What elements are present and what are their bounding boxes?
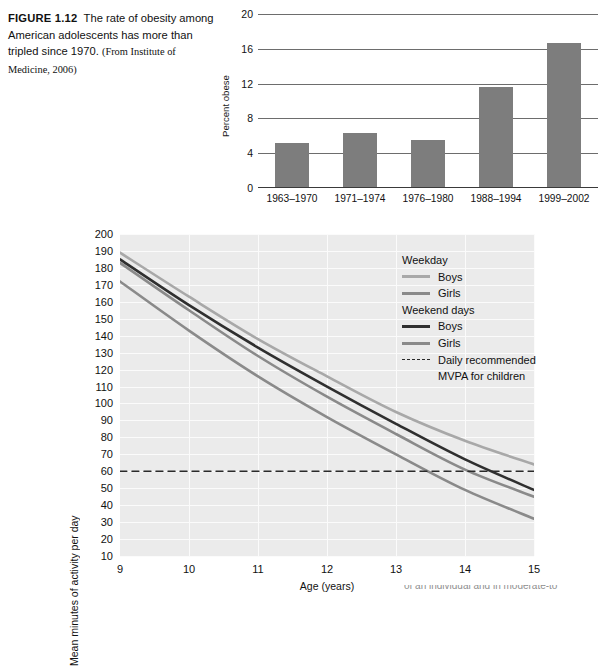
legend-item-weekday-boys: Boys [402,269,554,286]
line-y-tick-label: 110 [95,381,113,393]
line-y-tick-label: 150 [95,313,113,325]
legend-label-mvpa-line1: Daily recommended [438,352,536,369]
line-y-tick-label: 130 [95,347,113,359]
bar-y-tick-label: 20 [241,8,253,20]
line-x-tick-label: 10 [183,563,195,575]
line-x-tick-label: 15 [528,563,540,575]
bar-chart-x-axis [258,187,598,188]
line-y-tick-label: 70 [101,448,113,460]
bar-column [547,43,581,187]
line-x-tick-label: 9 [117,563,123,575]
legend-group-weekday: Weekday [402,252,554,269]
legend-label-weekend-boys: Boys [438,318,462,335]
bar-chart-plot-area: 048121620 1963–19701971–19741976–1980198… [258,10,598,188]
legend-item-weekend-boys: Boys [402,318,554,335]
line-y-tick-label: 40 [101,499,113,511]
legend-group-weekend: Weekend days [402,302,554,319]
legend-swatch-weekday-girls [402,292,430,295]
legend-label-weekday-girls: Girls [438,285,461,302]
bar-chart-y-axis-label: Percent obese [220,58,234,154]
bar-column [343,133,377,187]
line-y-tick-label: 190 [95,245,113,257]
bar-y-tick-label: 4 [247,147,253,159]
bar-column [479,87,513,187]
line-y-tick-label: 20 [101,533,113,545]
bar-x-tick-label: 1999–2002 [527,193,601,204]
activity-line-chart: Mean minutes of activity per day Weekday… [6,228,566,588]
legend-swatch-weekday-boys [402,275,430,278]
line-x-tick-label: 13 [390,563,402,575]
legend-label-mvpa-line2: MVPA for children [438,368,554,385]
line-y-tick-label: 140 [95,330,113,342]
bar-y-tick-label: 8 [247,112,253,124]
bar-y-tick-label: 12 [241,78,253,90]
legend-label-weekday-boys: Boys [438,269,462,286]
line-y-tick-label: 50 [101,482,113,494]
line-y-tick-label: 80 [101,431,113,443]
legend-swatch-mvpa-dashed-line [402,359,430,360]
legend-label-weekend-girls: Girls [438,335,461,352]
bar-y-tick-label: 16 [241,43,253,55]
line-y-tick-label: 30 [101,516,113,528]
line-x-tick-label: 11 [252,563,263,575]
line-x-tick-label: 12 [321,563,333,575]
bar-x-tick-label: 1963–1970 [255,193,329,204]
legend-swatch-weekend-girls [402,342,430,345]
line-y-tick-label: 120 [95,364,113,376]
line-y-tick-label: 180 [95,262,113,274]
line-gridline-horizontal [120,556,534,557]
line-y-tick-label: 100 [95,397,113,409]
line-y-tick-label: 200 [95,228,113,240]
bar-x-tick-label: 1976–1980 [391,193,465,204]
legend-swatch-weekend-boys [402,325,430,328]
line-y-tick-label: 90 [101,414,113,426]
line-chart-y-axis-label: Mean minutes of activity per day [68,496,84,670]
line-x-tick-label: 14 [459,563,471,575]
bar-y-tick-label: 0 [247,182,253,194]
line-chart-plot-area: Weekday Boys Girls Weekend days Boys Gir… [120,234,534,556]
legend-item-weekday-girls: Girls [402,285,554,302]
line-chart-plot-wrap: Weekday Boys Girls Weekend days Boys Gir… [120,234,534,556]
line-y-tick-label: 170 [95,279,113,291]
line-y-tick-label: 160 [95,296,113,308]
figure-number: FIGURE 1.12 [8,12,77,24]
bar-x-tick-label: 1971–1974 [323,193,397,204]
line-chart-legend: Weekday Boys Girls Weekend days Boys Gir… [402,252,554,385]
legend-item-weekend-girls: Girls [402,335,554,352]
next-figure-partial-caption: of an individual and in moderate-to [404,585,604,596]
obesity-bar-chart: Percent obese 048121620 1963–19701971–19… [222,6,600,206]
line-y-tick-label: 10 [101,550,113,562]
figure-caption: FIGURE 1.12 The rate of obesity among Am… [8,10,220,78]
legend-item-mvpa-reference: Daily recommended [402,352,554,369]
bar-column [411,140,445,187]
bar-gridline [258,14,598,15]
bar-column [275,143,309,187]
bar-x-tick-label: 1988–1994 [459,193,533,204]
line-y-tick-label: 60 [101,465,113,477]
